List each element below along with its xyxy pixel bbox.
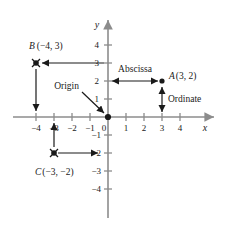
x-tick-label-neg2: −2: [67, 123, 77, 133]
y-axis-label: y: [94, 19, 100, 30]
x-tick-label-1: 1: [124, 123, 129, 133]
y-tick-label-1: 1: [95, 94, 100, 104]
point-b-coords: (−4, 3): [37, 41, 63, 52]
coordinate-plane-figure: −4 −3 −2 −1 0 1 2 3 4 4 3 2 1 −1 −2 −3 −…: [0, 0, 227, 229]
point-a-name: A: [168, 71, 175, 81]
x-axis-label: x: [202, 122, 208, 133]
x-tick-label-3: 3: [160, 123, 165, 133]
point-c-label: C(−3, −2): [35, 167, 74, 178]
point-origin-marker: [105, 114, 111, 120]
point-a-coords: (3, 2): [176, 71, 197, 82]
x-tick-label-2: 2: [142, 123, 147, 133]
x-tick-label-4: 4: [178, 123, 183, 133]
point-c-name: C: [35, 167, 42, 177]
point-a-marker: [159, 78, 164, 83]
point-a-label: A(3, 2): [168, 71, 196, 82]
point-b-label: B(−4, 3): [29, 41, 63, 52]
point-c-marker: [50, 149, 58, 157]
y-tick-label-4: 4: [95, 40, 100, 50]
y-tick-label-2: 2: [95, 76, 100, 86]
y-tick-label-neg4: −4: [91, 184, 101, 194]
x-tick-label-0: 0: [102, 123, 107, 133]
x-tick-label-neg4: −4: [31, 123, 41, 133]
ordinate-label: Ordinate: [168, 94, 201, 104]
origin-pointer-arrow: [82, 92, 104, 113]
y-tick-label-neg1: −1: [91, 130, 101, 140]
y-tick-label-neg3: −3: [91, 166, 101, 176]
point-b-name: B: [29, 41, 35, 51]
point-c-coords: (−3, −2): [42, 167, 73, 178]
abscissa-label: Abscissa: [118, 64, 153, 74]
point-b-marker: [32, 59, 40, 67]
origin-label: Origin: [54, 81, 79, 91]
